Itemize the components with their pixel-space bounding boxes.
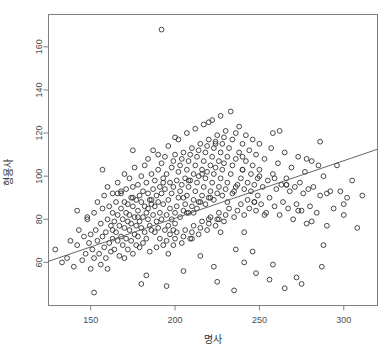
scatter-point [178, 163, 183, 168]
scatter-point [164, 238, 169, 243]
scatter-point [168, 206, 173, 211]
scatter-point [208, 163, 213, 168]
scatter-point [294, 275, 299, 280]
scatter-point [154, 245, 159, 250]
scatter-point [259, 202, 264, 207]
scatter-point [289, 165, 294, 170]
scatter-point [238, 202, 243, 207]
scatter-point [319, 264, 324, 269]
scatter-point [220, 141, 225, 146]
scatter-point [247, 206, 252, 211]
scatter-point [168, 180, 173, 185]
scatter-point [134, 223, 139, 228]
scatter-point [210, 180, 215, 185]
scatter-point [242, 187, 247, 192]
scatter-point [151, 213, 156, 218]
scatter-point [75, 243, 80, 248]
y-tick-label: 80 [35, 214, 45, 224]
scatter-point [164, 284, 169, 289]
scatter-point [277, 213, 282, 218]
scatter-point [296, 208, 301, 213]
scatter-point [222, 161, 227, 166]
x-tick-label: 250 [252, 315, 267, 325]
scatter-point [179, 182, 184, 187]
y-tick-label: 120 [35, 126, 45, 141]
scatter-point [179, 241, 184, 246]
y-tick-label: 60 [35, 257, 45, 267]
scatter-point [139, 200, 144, 205]
scatter-point [213, 223, 218, 228]
scatter-point [206, 137, 211, 142]
scatter-point [220, 167, 225, 172]
scatter-point [196, 148, 201, 153]
scatter-point [190, 230, 195, 235]
x-tick-label: 200 [168, 315, 183, 325]
scatter-point [181, 269, 186, 274]
scatter-point [227, 206, 232, 211]
scatter-point [254, 271, 259, 276]
scatter-point [299, 282, 304, 287]
scatter-point [211, 172, 216, 177]
plot-frame [49, 15, 378, 306]
scatter-point [217, 159, 222, 164]
scatter-point [105, 185, 110, 190]
scatter-point [112, 219, 117, 224]
scatter-point [304, 221, 309, 226]
scatter-point [95, 238, 100, 243]
scatter-point [181, 150, 186, 155]
scatter-point [191, 197, 196, 202]
scatter-point [228, 172, 233, 177]
scatter-point [149, 172, 154, 177]
scatter-point [163, 154, 168, 159]
scatter-point [249, 172, 254, 177]
scatter-point [159, 217, 164, 222]
scatter-point [88, 266, 93, 271]
scatter-point [201, 159, 206, 164]
scatter-point [117, 254, 122, 259]
scatter-point [308, 204, 313, 209]
scatter-point [95, 200, 100, 205]
scatter-point [217, 210, 222, 215]
scatter-point [355, 226, 360, 231]
scatter-point [225, 180, 230, 185]
scatter-point [53, 247, 58, 252]
scatter-point [154, 219, 159, 224]
scatter-point [115, 213, 120, 218]
scatter-point [68, 238, 73, 243]
scatter-point [233, 247, 238, 252]
scatter-point [274, 187, 279, 192]
scatter-point [142, 163, 147, 168]
scatter-point [203, 150, 208, 155]
scatter-point [169, 165, 174, 170]
scatter-point [360, 193, 365, 198]
scatter-point [166, 251, 171, 256]
scatter-point [213, 165, 218, 170]
scatter-point [125, 247, 130, 252]
scatter-point [203, 202, 208, 207]
scatter-point [179, 157, 184, 162]
scatter-point [117, 223, 122, 228]
scatter-point [115, 180, 120, 185]
scatter-point [304, 157, 309, 162]
scatter-point [119, 206, 124, 211]
scatter-point [225, 154, 230, 159]
scatter-point [217, 185, 222, 190]
scatter-point [240, 167, 245, 172]
scatter-point [218, 150, 223, 155]
scatter-point [130, 148, 135, 153]
scatter-point [227, 146, 232, 151]
scatter-point [107, 204, 112, 209]
scatter-point [98, 221, 103, 226]
scatter-point [276, 161, 281, 166]
scatter-point [311, 185, 316, 190]
scatter-point [220, 193, 225, 198]
scatter-point [235, 208, 240, 213]
data-points [53, 27, 365, 295]
scatter-point [65, 256, 70, 261]
scatter-point [215, 191, 220, 196]
scatter-point [237, 150, 242, 155]
scatter-point [136, 215, 141, 220]
scatter-point [178, 189, 183, 194]
scatter-point [233, 157, 238, 162]
y-axis-title: 형용사 [3, 159, 14, 186]
